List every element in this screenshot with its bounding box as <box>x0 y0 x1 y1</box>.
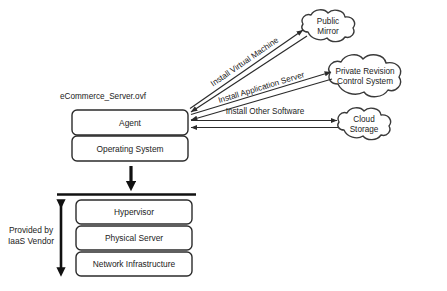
private-revision-label-line1: Private Revision <box>335 67 395 76</box>
vm-package-title: eCommerce_Server.ovf <box>60 92 147 101</box>
public-mirror-label-line1: Public <box>317 17 339 26</box>
cloud-storage-label-line1: Cloud <box>353 115 375 124</box>
infra-box-hypervisor[interactable]: Hypervisor <box>76 200 192 224</box>
vm-stack: Agent Operating System <box>72 110 188 161</box>
diagram-canvas: eCommerce_Server.ovf Agent Operating Sys… <box>0 0 447 291</box>
vm-box-operating-system[interactable]: Operating System <box>72 136 188 161</box>
vendor-note-line2: IaaS Vendor <box>8 236 54 246</box>
operating-system-box-label: Operating System <box>96 144 163 154</box>
vm-box-agent[interactable]: Agent <box>72 110 188 135</box>
edge-install-virtual-machine: Install Virtual Machine <box>190 30 307 112</box>
physical-server-box-label: Physical Server <box>105 233 163 243</box>
infra-box-network-infrastructure[interactable]: Network Infrastructure <box>76 252 192 276</box>
network-infrastructure-box-label: Network Infrastructure <box>93 259 176 269</box>
public-mirror-label-line2: Mirror <box>317 27 339 36</box>
vendor-note-line1: Provided by <box>9 225 54 235</box>
edge-install-other-software: Install Other Software <box>191 107 338 128</box>
infra-box-physical-server[interactable]: Physical Server <box>76 226 192 250</box>
iaas-deployment-diagram: eCommerce_Server.ovf Agent Operating Sys… <box>0 0 447 291</box>
private-revision-label-line2: Control System <box>337 77 393 86</box>
cloud-private-revision-control-system[interactable]: Private Revision Control System <box>329 55 401 97</box>
install-other-software-label: Install Other Software <box>226 107 305 116</box>
cloud-storage-label-line2: Storage <box>350 125 379 134</box>
iaas-vendor-annotation: Provided by IaaS Vendor <box>8 204 61 272</box>
hypervisor-box-label: Hypervisor <box>114 207 154 217</box>
cloud-public-mirror[interactable]: Public Mirror <box>302 10 355 42</box>
infrastructure-stack: Hypervisor Physical Server Network Infra… <box>76 200 192 276</box>
cloud-cloud-storage[interactable]: Cloud Storage <box>338 108 391 140</box>
agent-box-label: Agent <box>119 118 142 128</box>
